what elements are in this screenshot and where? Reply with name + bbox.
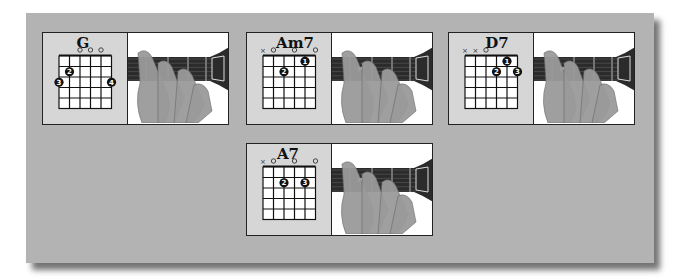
chord-diagram: D7 ××213 — [449, 33, 534, 124]
chord-card-d7: D7 ××213 — [448, 32, 635, 125]
chord-diagram: Am7 ×21 — [247, 33, 332, 124]
grid-frame — [59, 56, 112, 109]
chord-diagram: G 324 — [43, 33, 128, 124]
finger-number: 2 — [494, 68, 499, 76]
hand-photo — [332, 33, 432, 123]
chord-photo — [534, 33, 634, 124]
chord-name: Am7 — [253, 34, 337, 52]
finger-number: 3 — [57, 79, 62, 87]
hand-photo — [128, 33, 228, 123]
finger-number: 3 — [303, 179, 308, 187]
chord-name: A7 — [246, 145, 330, 163]
hand-photo — [332, 144, 432, 234]
finger-number: 2 — [282, 179, 287, 187]
grid-frame — [263, 167, 316, 220]
chord-panel: G 324 Am7 ×21 D7 ××213 A7 ×23 — [26, 13, 654, 263]
chord-photo — [332, 144, 432, 235]
chord-card-a7: A7 ×23 — [246, 143, 433, 236]
chord-photo — [128, 33, 228, 124]
finger-number: 4 — [109, 79, 114, 87]
finger-number: 2 — [282, 68, 287, 76]
chord-name: G — [41, 34, 125, 52]
finger-number: 2 — [67, 68, 72, 76]
finger-number: 1 — [303, 58, 308, 66]
hand-photo — [534, 33, 634, 123]
finger-number: 3 — [515, 68, 520, 76]
chord-photo — [332, 33, 432, 124]
chord-name: D7 — [455, 34, 539, 52]
chord-card-am7: Am7 ×21 — [246, 32, 433, 125]
finger-number: 1 — [505, 58, 510, 66]
chord-card-g: G 324 — [42, 32, 229, 125]
chord-diagram: A7 ×23 — [247, 144, 332, 235]
